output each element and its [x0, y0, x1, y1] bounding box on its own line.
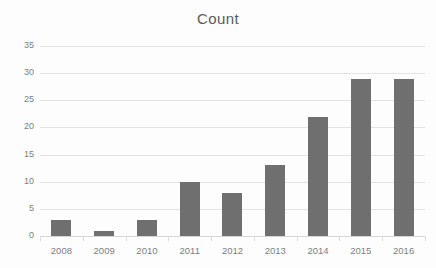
- bar-slot: [339, 46, 382, 236]
- bar-slot: [168, 46, 211, 236]
- x-tick-mark: [254, 236, 255, 241]
- bar-2012[interactable]: [222, 193, 242, 236]
- y-tick-label: 20: [8, 122, 34, 131]
- x-tick-mark: [425, 236, 426, 241]
- x-tick-label: 2016: [382, 245, 425, 257]
- bar-2011[interactable]: [180, 182, 200, 236]
- bar-slot: [40, 46, 83, 236]
- bar-2013[interactable]: [265, 165, 285, 236]
- y-tick-label: 0: [8, 231, 34, 240]
- bar-slot: [211, 46, 254, 236]
- bar-slot: [126, 46, 169, 236]
- bar-slot: [382, 46, 425, 236]
- chart-title: Count: [0, 10, 436, 27]
- x-tick-mark: [339, 236, 340, 241]
- y-tick-label: 10: [8, 177, 34, 186]
- x-tick-mark: [211, 236, 212, 241]
- y-tick-label: 25: [8, 95, 34, 104]
- x-tick-label: 2008: [40, 245, 83, 257]
- bar-slot: [297, 46, 340, 236]
- bar-slot: [254, 46, 297, 236]
- bar-2010[interactable]: [137, 220, 157, 236]
- bar-2016[interactable]: [394, 79, 414, 236]
- x-tick-label: 2010: [126, 245, 169, 257]
- x-tick-mark: [297, 236, 298, 241]
- y-tick-label: 35: [8, 41, 34, 50]
- bar-chart: Count 05101520253035 2008200920102011201…: [0, 0, 436, 268]
- x-tick-label: 2014: [297, 245, 340, 257]
- x-tick-mark: [40, 236, 41, 241]
- bar-2014[interactable]: [308, 117, 328, 236]
- x-tick-mark: [382, 236, 383, 241]
- axis-baseline: [40, 236, 425, 237]
- bar-2009[interactable]: [94, 231, 114, 236]
- x-tick-label: 2009: [83, 245, 126, 257]
- bars-layer: [40, 46, 425, 236]
- x-tick-label: 2015: [339, 245, 382, 257]
- x-tick-mark: [83, 236, 84, 241]
- x-axis: 200820092010201120122013201420152016: [40, 245, 425, 259]
- x-tick-label: 2011: [168, 245, 211, 257]
- bar-2008[interactable]: [51, 220, 71, 236]
- bar-slot: [83, 46, 126, 236]
- y-axis: 05101520253035: [0, 46, 34, 236]
- x-tick-label: 2012: [211, 245, 254, 257]
- x-tick-label: 2013: [254, 245, 297, 257]
- x-tick-mark: [126, 236, 127, 241]
- bar-2015[interactable]: [351, 79, 371, 236]
- x-tick-mark: [168, 236, 169, 241]
- y-tick-label: 5: [8, 204, 34, 213]
- y-tick-label: 30: [8, 68, 34, 77]
- y-tick-label: 15: [8, 150, 34, 159]
